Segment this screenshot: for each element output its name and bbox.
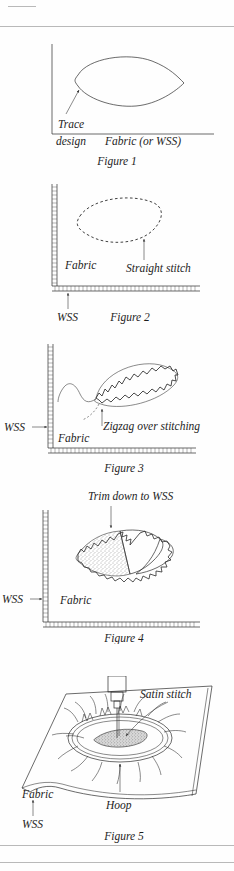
figure-5-hoop-label: Hoop (105, 799, 132, 812)
figure-4-caption: Figure 4 (103, 632, 144, 644)
figure-3-thread-tail (58, 384, 96, 402)
trace-design-arrow (66, 90, 79, 114)
figure-3: Zigzag over stitching WSS Fabric Figure … (0, 330, 234, 480)
figure-3-fabric-label: Fabric (57, 432, 89, 444)
figure-2-caption: Figure 2 (109, 311, 150, 324)
figure-5-caption: Figure 5 (103, 830, 144, 843)
figure-5-needle-assembly (108, 676, 126, 738)
figure-5-satin-leaf (94, 729, 147, 747)
top-full-rule (0, 26, 234, 27)
figure-2-leaf-dashed (77, 198, 161, 242)
figure-3-leaf-zigzag (96, 366, 178, 403)
figure-3-wss-label: WSS (4, 421, 25, 433)
figure-4-fabric-label: Fabric (59, 594, 91, 606)
figure-5: Satin stitch Hoop Fabric WSS Figure 5 (0, 676, 234, 844)
figure-2-fabric-label: Fabric (64, 259, 96, 271)
top-short-rule (8, 6, 36, 7)
figure-3-thread-tail-2 (82, 404, 99, 420)
bottom-rule-2 (0, 862, 234, 863)
bottom-rule-1 (0, 845, 234, 846)
figure-5-satin-label: Satin stitch (140, 688, 192, 700)
figure-2-edges (52, 184, 200, 291)
figure-3-leaf-guide (95, 364, 178, 407)
figure-1-trace-label-line2: design (56, 135, 86, 148)
figure-1-trace-label-line1: Trace (58, 118, 84, 130)
figure-1-leaf-outline (75, 57, 184, 106)
figure-4-wss-label: WSS (2, 593, 23, 605)
figure-sheet: Trace design Fabric (or WSS) Figure 1 St… (0, 0, 234, 871)
figure-4-right-lobe (136, 539, 173, 574)
figure-3-zigzag-label: Zigzag over stitching (103, 420, 200, 433)
figure-1-caption: Figure 1 (96, 155, 137, 168)
figure-5-wss-label: WSS (22, 818, 43, 830)
figure-1: Trace design Fabric (or WSS) Figure 1 (0, 28, 234, 173)
figure-4: Trim down to WSS WSS Fabric Figure 4 (0, 486, 234, 644)
figure-2: Straight stitch Fabric WSS Figure 2 (0, 176, 234, 324)
figure-1-fabric-label: Fabric (or WSS) (104, 135, 181, 148)
figure-2-wss-label: WSS (57, 311, 78, 323)
figure-2-straight-stitch-label: Straight stitch (126, 262, 191, 275)
figure-4-trim-label: Trim down to WSS (88, 490, 174, 502)
figure-5-right-edge-2 (192, 688, 208, 796)
figure-3-caption: Figure 3 (103, 462, 144, 475)
figure-5-fabric-label: Fabric (21, 788, 53, 800)
